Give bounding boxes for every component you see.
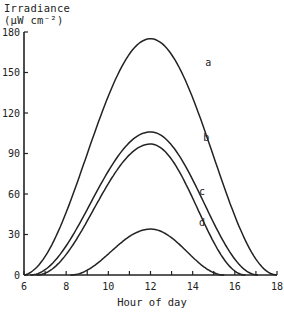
- curve-a: [24, 39, 277, 275]
- irradiance-chart: 0306090120150180681012141618abcd: [0, 0, 284, 316]
- y-tick-label: 60: [8, 189, 20, 200]
- y-tick-label: 0: [14, 270, 20, 281]
- y-tick-label: 30: [8, 229, 20, 240]
- y-tick-label: 90: [8, 148, 20, 159]
- curve-label-b: b: [203, 132, 209, 143]
- x-tick-label: 8: [63, 281, 69, 292]
- curve-d: [70, 229, 224, 275]
- y-tick-label: 120: [2, 108, 20, 119]
- x-tick-label: 12: [144, 281, 156, 292]
- curve-label-d: d: [199, 217, 205, 228]
- curve-label-a: a: [205, 57, 211, 68]
- x-tick-label: 10: [102, 281, 114, 292]
- y-tick-label: 150: [2, 67, 20, 78]
- x-tick-label: 18: [271, 281, 283, 292]
- y-tick-label: 180: [2, 27, 20, 38]
- x-tick-label: 16: [229, 281, 241, 292]
- x-tick-label: 14: [187, 281, 199, 292]
- x-axis-label: Hour of day: [0, 296, 284, 308]
- x-tick-label: 6: [21, 281, 27, 292]
- curve-b: [30, 132, 258, 275]
- curve-label-c: c: [199, 186, 205, 197]
